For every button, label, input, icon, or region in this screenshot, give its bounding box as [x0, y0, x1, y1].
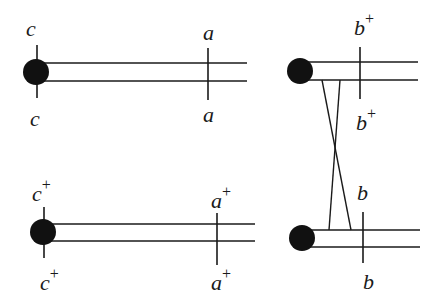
label-bottom-right-b-bottom: b — [363, 271, 374, 293]
label-top-left-c-bottom: c — [30, 108, 40, 130]
diagram-canvas: c c a a c+ c+ a+ a+ b+ b+ b b — [0, 0, 445, 308]
bottom-left-node-icon — [30, 219, 56, 245]
crossing-line-1 — [322, 80, 351, 230]
crossing-connector — [322, 80, 351, 230]
top-right-node-icon — [287, 58, 313, 84]
label-top-right-b-plus-bottom: b+ — [356, 112, 376, 134]
label-bottom-right-b-top: b — [357, 182, 368, 204]
bottom-right-node-icon — [289, 225, 315, 251]
diagram-graphics — [0, 0, 445, 308]
bottom-right-strand — [302, 212, 420, 263]
bottom-left-strand — [43, 207, 255, 265]
label-bottom-left-a-plus-bottom: a+ — [211, 272, 231, 294]
top-left-strand — [36, 45, 247, 100]
label-bottom-left-a-plus-top: a+ — [211, 190, 231, 212]
label-bottom-left-c-plus-bottom: c+ — [40, 272, 59, 294]
top-right-strand — [300, 47, 418, 99]
label-top-left-a-bottom: a — [203, 104, 214, 126]
crossing-line-2 — [329, 80, 340, 230]
label-bottom-left-c-plus-top: c+ — [32, 183, 51, 205]
label-top-left-a-top: a — [203, 22, 214, 44]
label-top-right-b-plus-top: b+ — [354, 17, 374, 39]
label-top-left-c-top: c — [26, 18, 36, 40]
top-left-node-icon — [23, 59, 49, 85]
